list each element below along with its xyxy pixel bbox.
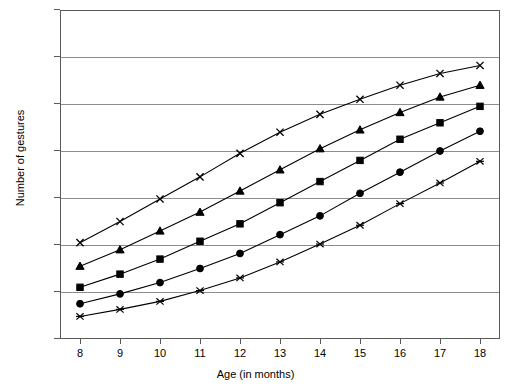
y-tick-mark — [54, 103, 60, 104]
y-tick-mark — [54, 150, 60, 151]
gridline — [61, 104, 499, 105]
gridline — [61, 292, 499, 293]
x-tick-label: 16 — [385, 348, 415, 359]
x-tick-label: 9 — [105, 348, 135, 359]
x-tick-label: 12 — [225, 348, 255, 359]
x-tick-label: 18 — [465, 348, 495, 359]
x-tick-label: 15 — [345, 348, 375, 359]
gridline — [61, 151, 499, 152]
x-tick-mark — [360, 339, 361, 344]
x-tick-mark — [160, 339, 161, 344]
y-tick-mark — [54, 338, 60, 339]
chart-container: 010203040506070 89101112131415161718 Num… — [0, 0, 511, 390]
x-tick-label: 13 — [265, 348, 295, 359]
y-tick-mark — [54, 9, 60, 10]
x-tick-mark — [120, 339, 121, 344]
gridline — [61, 198, 499, 199]
x-tick-mark — [320, 339, 321, 344]
x-tick-mark — [80, 339, 81, 344]
x-tick-mark — [200, 339, 201, 344]
x-tick-mark — [240, 339, 241, 344]
y-tick-mark — [54, 291, 60, 292]
x-tick-label: 8 — [65, 348, 95, 359]
gridline — [61, 57, 499, 58]
x-axis-title: Age (in months) — [0, 368, 511, 380]
plot-area — [60, 10, 500, 339]
x-tick-label: 17 — [425, 348, 455, 359]
x-tick-label: 14 — [305, 348, 335, 359]
y-tick-mark — [54, 244, 60, 245]
x-tick-mark — [400, 339, 401, 344]
y-tick-mark — [54, 56, 60, 57]
y-tick-mark — [54, 197, 60, 198]
gridline — [61, 245, 499, 246]
x-tick-mark — [440, 339, 441, 344]
x-tick-mark — [280, 339, 281, 344]
x-tick-mark — [480, 339, 481, 344]
x-tick-label: 10 — [145, 348, 175, 359]
x-tick-label: 11 — [185, 348, 215, 359]
y-axis-title: Number of gestures — [14, 78, 26, 238]
